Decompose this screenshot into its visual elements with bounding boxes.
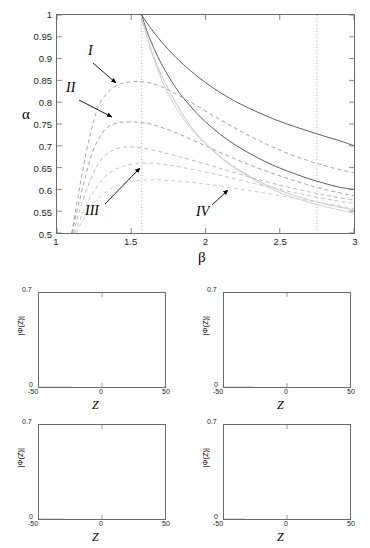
y-tick: 1 bbox=[18, 9, 52, 20]
subplot-plot-area bbox=[223, 292, 351, 388]
subplot-y-top-tick: 0.7 bbox=[207, 286, 217, 293]
subplot-x-tick-mid: 0 bbox=[284, 388, 288, 395]
y-tick: 0.9 bbox=[18, 53, 52, 64]
subplot-profile-svg bbox=[224, 425, 350, 519]
subplot-II: 0.7 0 |Φ(Z)| -50 0 50 Z II bbox=[185, 282, 370, 416]
main-curves-svg bbox=[57, 15, 354, 233]
subplot-y-bottom-tick: 0 bbox=[29, 513, 33, 520]
subplot-x-tick-left: -50 bbox=[28, 388, 38, 395]
subplot-y-axis-label: |Φ(Z)| bbox=[16, 448, 25, 467]
subplot-x-tick-mid: 0 bbox=[99, 520, 103, 527]
annotation-label-II: II bbox=[66, 80, 75, 96]
x-tick: 3 bbox=[340, 236, 370, 247]
main-y-tick-labels: 1 0.95 0.9 0.85 0.8 0.75 0.7 0.65 0.6 0.… bbox=[16, 14, 52, 234]
subplot-y-bottom-tick: 0 bbox=[214, 381, 218, 388]
subplot-x-tick-right: 50 bbox=[162, 520, 170, 527]
subplot-y-axis-label: |Φ(Z)| bbox=[16, 316, 25, 335]
subplot-plot-area bbox=[223, 424, 351, 520]
subplot-plot-area bbox=[38, 424, 166, 520]
subplot-x-tick-right: 50 bbox=[162, 388, 170, 395]
x-tick: 1.5 bbox=[116, 236, 146, 247]
subplot-plot-area bbox=[38, 292, 166, 388]
subplot-y-bottom-tick: 0 bbox=[29, 381, 33, 388]
main-phase-diagram: α 1 0.95 0.9 0.85 0.8 0.75 0.7 0.65 0.6 … bbox=[0, 0, 370, 278]
y-tick: 0.55 bbox=[18, 207, 52, 218]
subplot-profile-svg bbox=[39, 293, 165, 387]
subplot-x-tick-right: 50 bbox=[347, 388, 355, 395]
y-tick: 0.65 bbox=[18, 163, 52, 174]
annotation-label-IV: IV bbox=[196, 204, 209, 220]
subplot-x-tick-left: -50 bbox=[213, 388, 223, 395]
main-plot-area bbox=[56, 14, 355, 234]
subplot-IV: 0.7 0 |Φ(Z)| -50 0 50 Z IV bbox=[185, 414, 370, 548]
subplot-profile-svg bbox=[224, 293, 350, 387]
y-tick: 0.85 bbox=[18, 75, 52, 86]
subplot-III: 0.7 0 |Φ(Z)| -50 0 50 Z III bbox=[0, 414, 185, 548]
subplot-y-axis-label: |Φ(Z)| bbox=[201, 448, 210, 467]
y-tick: 0.7 bbox=[18, 141, 52, 152]
subplot-x-tick-left: -50 bbox=[213, 520, 223, 527]
subplot-I: 0.7 0 |Φ(Z)| -50 0 50 Z I bbox=[0, 282, 185, 416]
y-tick: 0.6 bbox=[18, 185, 52, 196]
subplot-x-axis-label: Z bbox=[277, 530, 284, 545]
subplot-x-tick-mid: 0 bbox=[99, 388, 103, 395]
y-tick: 0.95 bbox=[18, 31, 52, 42]
subplot-x-axis-label: Z bbox=[92, 398, 99, 413]
subplot-x-axis-label: Z bbox=[277, 398, 284, 413]
subplot-profile-svg bbox=[39, 425, 165, 519]
subplot-x-tick-left: -50 bbox=[28, 520, 38, 527]
subplot-y-bottom-tick: 0 bbox=[214, 513, 218, 520]
subplot-y-top-tick: 0.7 bbox=[22, 418, 32, 425]
annotation-label-III: III bbox=[85, 203, 99, 219]
subplot-x-axis-label: Z bbox=[92, 530, 99, 545]
subplot-y-axis-label: |Φ(Z)| bbox=[201, 316, 210, 335]
x-tick: 2 bbox=[191, 236, 221, 247]
figure-root: α 1 0.95 0.9 0.85 0.8 0.75 0.7 0.65 0.6 … bbox=[0, 0, 370, 548]
annotation-label-I: I bbox=[88, 43, 93, 59]
main-x-tick-labels: 1 1.5 2 2.5 3 bbox=[56, 236, 355, 250]
subplot-y-top-tick: 0.7 bbox=[207, 418, 217, 425]
subplot-y-top-tick: 0.7 bbox=[22, 286, 32, 293]
x-tick: 2.5 bbox=[265, 236, 295, 247]
y-tick: 0.75 bbox=[18, 119, 52, 130]
subplot-x-tick-mid: 0 bbox=[284, 520, 288, 527]
y-tick: 0.8 bbox=[18, 97, 52, 108]
subplot-x-tick-right: 50 bbox=[347, 520, 355, 527]
x-tick: 1 bbox=[41, 236, 71, 247]
main-x-axis-label: β bbox=[198, 249, 206, 266]
